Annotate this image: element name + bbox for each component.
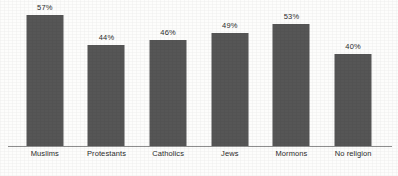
bar-slot: 49% bbox=[199, 8, 261, 146]
category-label-no-religion: No religion bbox=[322, 149, 384, 158]
bar-mormons[interactable]: 53% bbox=[273, 24, 310, 146]
bar-value-label: 57% bbox=[37, 3, 53, 12]
category-label-muslims: Muslims bbox=[14, 149, 76, 158]
category-label-catholics: Catholics bbox=[137, 149, 199, 158]
bar-no-religion[interactable]: 40% bbox=[335, 54, 372, 146]
bar-slot: 40% bbox=[322, 8, 384, 146]
bar-value-label: 49% bbox=[222, 21, 238, 30]
bar-slot: 44% bbox=[76, 8, 138, 146]
bar-value-label: 44% bbox=[99, 33, 115, 42]
bar-value-label: 46% bbox=[160, 28, 176, 37]
bar-value-label: 40% bbox=[345, 42, 361, 51]
bar-jews[interactable]: 49% bbox=[211, 33, 248, 146]
category-axis: MuslimsProtestantsCatholicsJewsMormonsNo… bbox=[14, 149, 384, 165]
bar-value-label: 53% bbox=[284, 12, 300, 21]
bar-protestants[interactable]: 44% bbox=[88, 45, 125, 146]
baseline-axis bbox=[8, 146, 392, 147]
category-label-jews: Jews bbox=[199, 149, 261, 158]
bar-slot: 46% bbox=[137, 8, 199, 146]
bar-catholics[interactable]: 46% bbox=[150, 40, 187, 146]
bar-slot: 53% bbox=[261, 8, 323, 146]
bar-slot: 57% bbox=[14, 8, 76, 146]
plot-area: 57%44%46%49%53%40% bbox=[14, 8, 384, 146]
category-label-mormons: Mormons bbox=[261, 149, 323, 158]
bar-muslims[interactable]: 57% bbox=[26, 15, 63, 146]
bar-chart-figure: 57%44%46%49%53%40% MuslimsProtestantsCat… bbox=[0, 0, 398, 176]
category-label-protestants: Protestants bbox=[76, 149, 138, 158]
